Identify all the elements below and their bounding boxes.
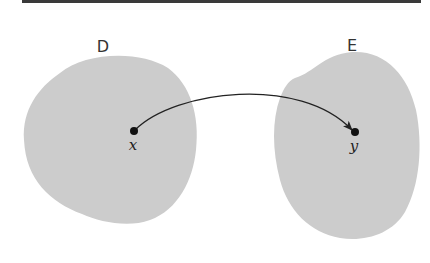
point-y-dot — [351, 128, 359, 136]
set-e-label: E — [347, 36, 357, 55]
point-x-label: x — [129, 136, 138, 154]
point-y-label: y — [349, 137, 359, 155]
set-e-region — [274, 52, 420, 239]
set-d-label: D — [97, 37, 109, 56]
set-d-region — [24, 56, 197, 224]
mapping-diagram: D E x y — [0, 0, 430, 263]
point-x-dot — [130, 127, 138, 135]
